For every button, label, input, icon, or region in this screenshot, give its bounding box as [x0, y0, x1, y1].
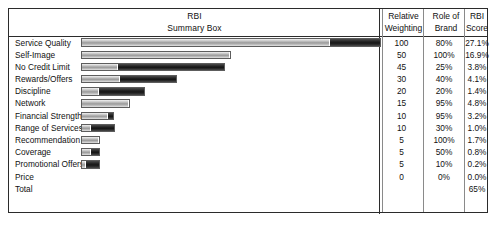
bar-segment-light [82, 88, 99, 94]
row-label: Price [15, 172, 34, 183]
bar-segment-dark [120, 76, 176, 82]
row-bar [81, 112, 114, 120]
bar-segment-dark [91, 125, 114, 131]
bar-segment-dark [330, 39, 380, 45]
row-bar [81, 124, 115, 132]
cell-relative-weighting: 100 [380, 38, 423, 49]
table-row: Price00%0.0% [9, 171, 487, 183]
bar-segment-dark [86, 161, 99, 167]
table-row: Network1595%4.8% [9, 98, 487, 110]
bar-segment-dark [99, 88, 144, 94]
summary-table-frame: RBI Summary Box Relative Weighting Role … [8, 8, 488, 213]
bar-segment-light [82, 64, 118, 70]
cell-relative-weighting: 20 [380, 86, 423, 97]
page-title: RBI Summary Box [9, 11, 380, 34]
cell-rbi-score: 3.8% [465, 62, 489, 73]
table-row: Range of Services1030%1.0% [9, 122, 487, 134]
row-bar [81, 87, 145, 95]
cell-rbi-score: 65% [465, 184, 489, 195]
column-header-role-of-brand-line2: Brand [427, 23, 465, 35]
cell-role-of-brand: 100% [423, 135, 465, 146]
cell-rbi-score: 4.1% [465, 74, 489, 85]
cell-rbi-score: 0.0% [465, 172, 489, 183]
row-label: Recommendation [15, 135, 80, 146]
cell-rbi-score: 1.4% [465, 86, 489, 97]
row-label: Discipline [15, 86, 51, 97]
cell-role-of-brand: 100% [423, 50, 465, 61]
cell-rbi-score: 4.8% [465, 98, 489, 109]
cell-role-of-brand: 25% [423, 62, 465, 73]
column-header-role-of-brand: Role of Brand [427, 11, 465, 34]
row-label: Total [15, 184, 33, 195]
row-label: Coverage [15, 147, 51, 158]
table-row: Service Quality10080%27.1% [9, 37, 487, 49]
bar-segment-light [82, 137, 99, 143]
cell-role-of-brand: 50% [423, 147, 465, 158]
cell-relative-weighting: 45 [380, 62, 423, 73]
table-body: Service Quality10080%27.1%Self-Image5010… [9, 37, 487, 195]
column-header-rbi-score-line2: Score [465, 23, 489, 35]
table-row: No Credit Limit4525%3.8% [9, 61, 487, 73]
bar-segment-light [82, 149, 91, 155]
cell-role-of-brand: 20% [423, 86, 465, 97]
row-bar [81, 136, 100, 144]
bar-segment-light [82, 52, 230, 58]
cell-relative-weighting: 30 [380, 74, 423, 85]
table-row: Promotional Offers510%0.2% [9, 159, 487, 171]
cell-relative-weighting: 10 [380, 111, 423, 122]
column-header-relative-weighting-line2: Weighting [380, 23, 427, 35]
row-label: Network [15, 98, 45, 109]
column-header-rbi-score-line1: RBI [465, 11, 489, 23]
row-bar [81, 148, 100, 156]
cell-relative-weighting: 5 [380, 147, 423, 158]
cell-rbi-score: 0.2% [465, 159, 489, 170]
row-bar [81, 63, 225, 71]
cell-rbi-score: 16.9% [465, 50, 489, 61]
row-label: Financial Strength [15, 111, 82, 122]
bar-segment-light [82, 39, 330, 45]
cell-relative-weighting: 10 [380, 123, 423, 134]
bar-segment-light [82, 100, 129, 106]
row-label: No Credit Limit [15, 62, 70, 73]
cell-rbi-score: 3.2% [465, 111, 489, 122]
row-bar [81, 51, 231, 59]
title-line-2: Summary Box [9, 23, 380, 35]
row-bar [81, 38, 381, 46]
cell-rbi-score: 1.0% [465, 123, 489, 134]
table-row: Total65% [9, 183, 487, 195]
cell-rbi-score: 0.8% [465, 147, 489, 158]
column-header-rbi-score: RBI Score [465, 11, 489, 34]
table-row: Rewards/Offers3040%4.1% [9, 74, 487, 86]
row-label: Service Quality [15, 38, 71, 49]
cell-role-of-brand: 0% [423, 172, 465, 183]
row-label: Range of Services [15, 123, 83, 134]
column-header-role-of-brand-line1: Role of [427, 11, 465, 23]
title-line-1: RBI [187, 11, 201, 21]
cell-rbi-score: 1.7% [465, 135, 489, 146]
rbi-summary-box-figure: RBI Summary Box Relative Weighting Role … [0, 0, 496, 230]
row-label: Rewards/Offers [15, 74, 72, 85]
column-header-relative-weighting-line1: Relative [380, 11, 427, 23]
row-bar [81, 99, 130, 107]
cell-relative-weighting: 50 [380, 50, 423, 61]
row-bar [81, 75, 177, 83]
cell-role-of-brand: 30% [423, 123, 465, 134]
bar-segment-dark [91, 149, 99, 155]
cell-relative-weighting: 15 [380, 98, 423, 109]
table-header-band: RBI Summary Box Relative Weighting Role … [9, 9, 487, 37]
table-row: Financial Strength1095%3.2% [9, 110, 487, 122]
column-header-relative-weighting: Relative Weighting [380, 11, 427, 34]
table-row: Recommendation5100%1.7% [9, 135, 487, 147]
row-label: Promotional Offers [15, 159, 84, 170]
bar-segment-light [82, 76, 120, 82]
cell-relative-weighting: 5 [380, 159, 423, 170]
bar-segment-dark [118, 64, 225, 70]
cell-relative-weighting: 0 [380, 172, 423, 183]
bar-segment-dark [108, 113, 113, 119]
cell-role-of-brand: 95% [423, 98, 465, 109]
cell-role-of-brand: 80% [423, 38, 465, 49]
row-bar [81, 160, 100, 168]
bar-segment-light [82, 113, 108, 119]
table-row: Self-Image50100%16.9% [9, 49, 487, 61]
cell-role-of-brand: 10% [423, 159, 465, 170]
